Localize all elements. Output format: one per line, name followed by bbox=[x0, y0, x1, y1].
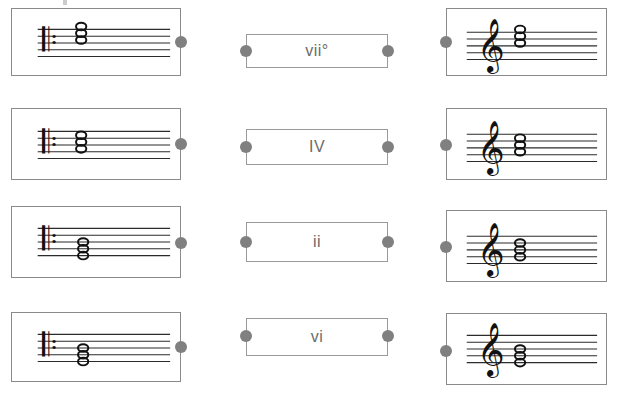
chord-noteheads bbox=[76, 23, 86, 44]
connector-dot-left-4[interactable] bbox=[175, 341, 187, 353]
chord-noteheads bbox=[515, 26, 525, 47]
bass-staff-2: 𝄆 bbox=[12, 109, 180, 179]
treble-staff-4: 𝄞 bbox=[447, 314, 606, 384]
connector-dot-right-4[interactable] bbox=[440, 345, 452, 357]
bass-clef-card-2[interactable]: 𝄆 bbox=[11, 108, 181, 180]
connector-dot-left-2[interactable] bbox=[175, 138, 187, 150]
exercise-canvas: 𝄆 vii° bbox=[0, 0, 624, 396]
treble-clef-card-3[interactable]: 𝄞 bbox=[446, 210, 607, 282]
roman-numeral-card-1[interactable]: vii° bbox=[246, 34, 388, 68]
connector-dot-mid-left-1[interactable] bbox=[240, 45, 252, 57]
roman-numeral-label-1: vii° bbox=[247, 35, 387, 67]
connector-dot-mid-left-2[interactable] bbox=[240, 141, 252, 153]
treble-staff-2: 𝄞 bbox=[447, 109, 606, 179]
treble-clef-card-1[interactable]: 𝄞 bbox=[446, 8, 607, 76]
bass-staff-4: 𝄆 bbox=[12, 313, 180, 381]
connector-dot-right-1[interactable] bbox=[440, 36, 452, 48]
connector-dot-right-2[interactable] bbox=[440, 139, 452, 151]
bass-clef-card-1[interactable]: 𝄆 bbox=[11, 8, 181, 76]
roman-numeral-card-3[interactable]: ii bbox=[246, 222, 388, 262]
treble-clef-glyph: 𝄞 bbox=[477, 19, 504, 75]
connector-dot-mid-right-3[interactable] bbox=[382, 236, 394, 248]
connector-dot-left-1[interactable] bbox=[175, 36, 187, 48]
chord-noteheads bbox=[76, 131, 86, 152]
treble-clef-glyph: 𝄞 bbox=[477, 223, 504, 279]
bass-clef-glyph: 𝄆 bbox=[42, 21, 58, 59]
page-top-artifact bbox=[63, 0, 67, 5]
roman-numeral-card-4[interactable]: vi bbox=[246, 318, 388, 356]
connector-dot-left-3[interactable] bbox=[175, 237, 187, 249]
bass-clef-card-4[interactable]: 𝄆 bbox=[11, 312, 181, 382]
chord-noteheads bbox=[515, 134, 525, 155]
connector-dot-mid-right-4[interactable] bbox=[382, 330, 394, 342]
bass-clef-glyph: 𝄆 bbox=[42, 123, 58, 161]
bass-clef-card-3[interactable]: 𝄆 bbox=[11, 206, 181, 278]
treble-clef-card-2[interactable]: 𝄞 bbox=[446, 108, 607, 180]
connector-dot-mid-left-3[interactable] bbox=[240, 236, 252, 248]
connector-dot-mid-right-2[interactable] bbox=[382, 141, 394, 153]
connector-dot-mid-right-1[interactable] bbox=[382, 45, 394, 57]
bass-staff-1: 𝄆 bbox=[12, 9, 180, 75]
treble-clef-card-4[interactable]: 𝄞 bbox=[446, 313, 607, 385]
bass-staff-3: 𝄆 bbox=[12, 207, 180, 277]
bass-clef-glyph: 𝄆 bbox=[42, 220, 58, 258]
roman-numeral-label-2: IV bbox=[247, 130, 387, 164]
treble-staff-3: 𝄞 bbox=[447, 211, 606, 281]
connector-dot-mid-left-4[interactable] bbox=[240, 330, 252, 342]
treble-clef-glyph: 𝄞 bbox=[477, 121, 504, 177]
treble-staff-1: 𝄞 bbox=[447, 9, 606, 75]
connector-dot-right-3[interactable] bbox=[440, 241, 452, 253]
roman-numeral-card-2[interactable]: IV bbox=[246, 129, 388, 165]
roman-numeral-label-3: ii bbox=[247, 223, 387, 261]
bass-clef-glyph: 𝄆 bbox=[42, 326, 58, 364]
roman-numeral-label-4: vi bbox=[247, 319, 387, 355]
treble-clef-glyph: 𝄞 bbox=[477, 322, 504, 378]
